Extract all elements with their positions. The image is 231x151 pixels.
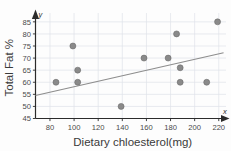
y-axis-letter: y [38,10,44,19]
data-point [174,31,180,37]
y-tick-label: 60 [22,78,30,87]
y-tick-label: 80 [22,30,30,39]
x-tick-label: 100 [68,123,81,132]
y-tick-label: 65 [22,66,30,75]
data-point [204,79,210,85]
trend-line [36,53,224,96]
y-tick-label: 55 [22,90,30,99]
data-point [70,43,76,49]
y-tick-label: 70 [22,54,30,63]
vertical-gridlines [50,13,219,119]
x-tick-label: 220 [212,123,225,132]
data-point [141,55,147,61]
y-tick-label: 75 [22,42,30,51]
data-point [75,79,81,85]
x-axis-title: Dietary chloesterol(mg) [73,136,192,148]
x-axis-letter: x [222,107,227,116]
x-tick-label: 160 [140,123,153,132]
x-tick-label: 120 [92,123,105,132]
x-tick-label: 200 [188,123,201,132]
x-tick-label: 140 [116,123,129,132]
data-point [177,65,183,71]
data-point [53,79,59,85]
x-axis-arrow-icon [221,115,230,122]
y-tick-label: 85 [22,18,30,27]
x-tick-label: 80 [46,123,54,132]
y-axis-ticks: 455055606570758085 [22,18,35,124]
y-axis-title: Total Fat % [3,39,15,97]
data-points [53,19,221,110]
data-point [215,19,221,25]
data-point [165,55,171,61]
chart-axes [32,10,230,122]
x-axis-ticks: 80100120140160180200220 [46,119,225,132]
data-point [177,79,183,85]
scatter-chart: 455055606570758085 801001201401601802002… [0,0,231,151]
y-tick-label: 50 [22,102,30,111]
chart-canvas: 455055606570758085 801001201401601802002… [0,0,231,151]
y-tick-label: 45 [22,114,30,123]
horizontal-gridlines [36,22,227,119]
x-tick-label: 180 [164,123,177,132]
data-point [75,67,81,73]
data-point [118,103,124,109]
